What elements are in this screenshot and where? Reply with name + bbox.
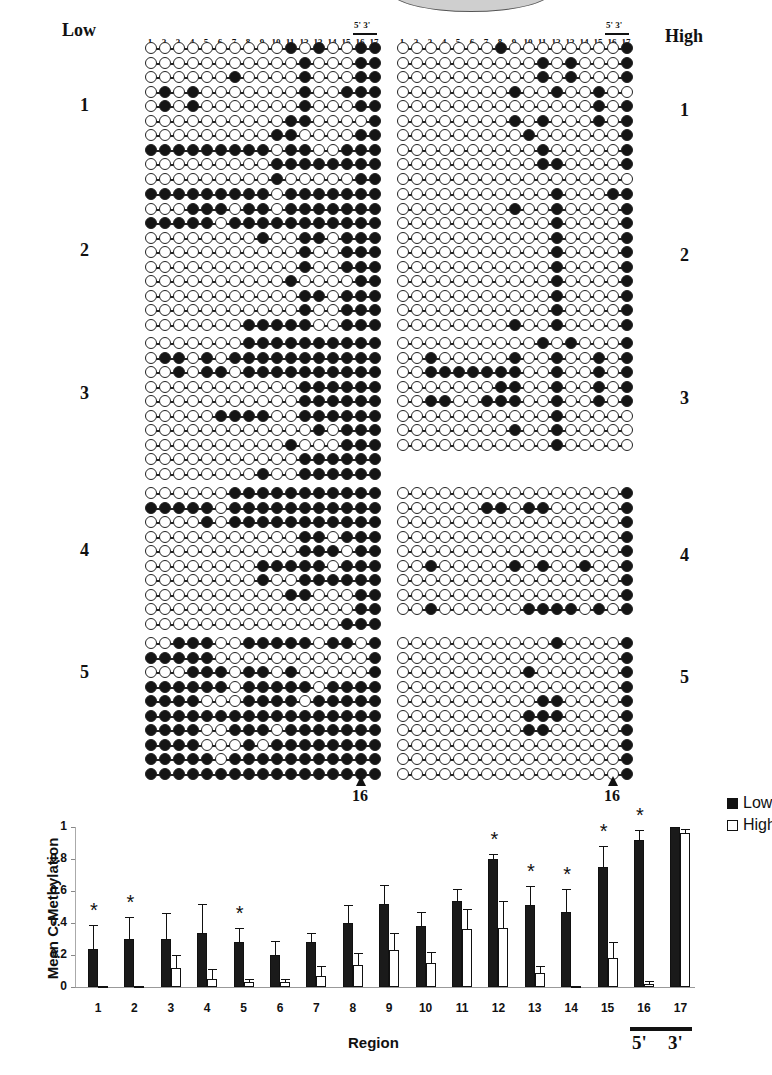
unmethylated-cpg-dot bbox=[229, 158, 241, 170]
unmethylated-cpg-dot bbox=[327, 290, 339, 302]
unmethylated-cpg-dot bbox=[467, 560, 479, 572]
unmethylated-cpg-dot bbox=[537, 129, 549, 141]
unmethylated-cpg-dot bbox=[411, 589, 423, 601]
methylated-cpg-dot bbox=[369, 290, 381, 302]
unmethylated-cpg-dot bbox=[215, 352, 227, 364]
unmethylated-cpg-dot bbox=[453, 203, 465, 215]
error-bar-cap bbox=[125, 917, 134, 918]
methylated-cpg-dot bbox=[537, 337, 549, 349]
low-bar-region-14 bbox=[561, 912, 571, 987]
error-bar bbox=[239, 928, 240, 942]
methylated-cpg-dot bbox=[341, 395, 353, 407]
unmethylated-cpg-dot bbox=[509, 695, 521, 707]
methylated-cpg-dot bbox=[201, 652, 213, 664]
unmethylated-cpg-dot bbox=[215, 232, 227, 244]
unmethylated-cpg-dot bbox=[523, 381, 535, 393]
unmethylated-cpg-dot bbox=[397, 487, 409, 499]
legend-item-high: High bbox=[727, 814, 772, 836]
methylated-cpg-dot bbox=[313, 366, 325, 378]
unmethylated-cpg-dot bbox=[397, 246, 409, 258]
methylated-cpg-dot bbox=[341, 381, 353, 393]
unmethylated-cpg-dot bbox=[495, 410, 507, 422]
unmethylated-cpg-dot bbox=[607, 487, 619, 499]
unmethylated-cpg-dot bbox=[215, 86, 227, 98]
unmethylated-cpg-dot bbox=[145, 275, 157, 287]
methylated-cpg-dot bbox=[187, 637, 199, 649]
methylated-cpg-dot bbox=[299, 560, 311, 572]
unmethylated-cpg-dot bbox=[257, 158, 269, 170]
methylated-cpg-dot bbox=[369, 487, 381, 499]
unmethylated-cpg-dot bbox=[495, 560, 507, 572]
unmethylated-cpg-dot bbox=[439, 410, 451, 422]
unmethylated-cpg-dot bbox=[425, 516, 437, 528]
significance-star: * bbox=[84, 899, 104, 922]
unmethylated-cpg-dot bbox=[327, 531, 339, 543]
methylated-cpg-dot bbox=[285, 275, 297, 287]
unmethylated-cpg-dot bbox=[565, 42, 577, 54]
methylated-cpg-dot bbox=[565, 71, 577, 83]
unmethylated-cpg-dot bbox=[173, 395, 185, 407]
methylated-cpg-dot bbox=[257, 352, 269, 364]
error-bar-cap bbox=[172, 955, 181, 956]
unmethylated-cpg-dot bbox=[607, 115, 619, 127]
unmethylated-cpg-dot bbox=[229, 366, 241, 378]
unmethylated-cpg-dot bbox=[327, 261, 339, 273]
clone-row bbox=[145, 516, 383, 529]
unmethylated-cpg-dot bbox=[551, 337, 563, 349]
unmethylated-cpg-dot bbox=[397, 319, 409, 331]
unmethylated-cpg-dot bbox=[243, 71, 255, 83]
unmethylated-cpg-dot bbox=[159, 158, 171, 170]
unmethylated-cpg-dot bbox=[551, 652, 563, 664]
unmethylated-cpg-dot bbox=[145, 173, 157, 185]
y-tick-label: 1 bbox=[37, 819, 67, 833]
unmethylated-cpg-dot bbox=[523, 545, 535, 557]
unmethylated-cpg-dot bbox=[411, 531, 423, 543]
methylated-cpg-dot bbox=[173, 753, 185, 765]
methylated-cpg-dot bbox=[355, 158, 367, 170]
methylated-cpg-dot bbox=[313, 188, 325, 200]
unmethylated-cpg-dot bbox=[285, 304, 297, 316]
unmethylated-cpg-dot bbox=[411, 319, 423, 331]
methylated-cpg-dot bbox=[313, 453, 325, 465]
methylated-cpg-dot bbox=[621, 337, 633, 349]
unmethylated-cpg-dot bbox=[215, 275, 227, 287]
unmethylated-cpg-dot bbox=[173, 290, 185, 302]
methylated-cpg-dot bbox=[537, 560, 549, 572]
methylated-cpg-dot bbox=[313, 42, 325, 54]
unmethylated-cpg-dot bbox=[537, 290, 549, 302]
unmethylated-cpg-dot bbox=[453, 232, 465, 244]
methylated-cpg-dot bbox=[537, 502, 549, 514]
clone-row bbox=[397, 203, 635, 216]
methylated-cpg-dot bbox=[369, 381, 381, 393]
low-bar-region-17 bbox=[670, 827, 680, 987]
unmethylated-cpg-dot bbox=[551, 768, 563, 780]
unmethylated-cpg-dot bbox=[201, 57, 213, 69]
unmethylated-cpg-dot bbox=[439, 188, 451, 200]
error-bar bbox=[275, 941, 276, 955]
unmethylated-cpg-dot bbox=[327, 319, 339, 331]
unmethylated-cpg-dot bbox=[285, 468, 297, 480]
unmethylated-cpg-dot bbox=[229, 439, 241, 451]
methylated-cpg-dot bbox=[299, 487, 311, 499]
unmethylated-cpg-dot bbox=[537, 188, 549, 200]
unmethylated-cpg-dot bbox=[509, 304, 521, 316]
significance-star: * bbox=[557, 863, 577, 886]
methylation-bar-chart: Mean C-Methylation00.20.40.60.81*1*234*5… bbox=[0, 780, 772, 1075]
unmethylated-cpg-dot bbox=[257, 395, 269, 407]
error-bar-cap bbox=[635, 830, 644, 831]
methylated-cpg-dot bbox=[425, 395, 437, 407]
unmethylated-cpg-dot bbox=[537, 574, 549, 586]
methylated-cpg-dot bbox=[369, 453, 381, 465]
unmethylated-cpg-dot bbox=[453, 144, 465, 156]
unmethylated-cpg-dot bbox=[411, 395, 423, 407]
unmethylated-cpg-dot bbox=[411, 203, 423, 215]
unmethylated-cpg-dot bbox=[201, 232, 213, 244]
clone-row bbox=[397, 410, 635, 423]
unmethylated-cpg-dot bbox=[439, 652, 451, 664]
methylated-cpg-dot bbox=[369, 395, 381, 407]
methylated-cpg-dot bbox=[355, 100, 367, 112]
methylated-cpg-dot bbox=[257, 753, 269, 765]
x-tick-label: 1 bbox=[83, 1001, 113, 1015]
error-bar-cap bbox=[427, 952, 436, 953]
methylated-cpg-dot bbox=[425, 560, 437, 572]
